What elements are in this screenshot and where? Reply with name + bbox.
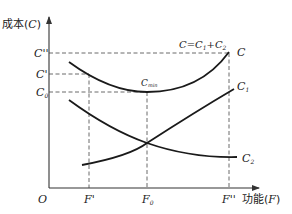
- curve-c2-label: C2: [242, 152, 254, 165]
- curve-c1-label: C1: [237, 80, 249, 93]
- x-axis-label: 功能(F): [242, 192, 280, 206]
- total-cost-equation: C=C1+C2: [179, 39, 227, 51]
- cmin-label: Cmin: [141, 78, 157, 88]
- curve-c-label: C: [237, 46, 246, 59]
- f-prime-label: F': [83, 193, 95, 206]
- c0-label: C0: [36, 86, 48, 99]
- cost-curve-c2: [69, 100, 237, 157]
- f0-label: F0: [141, 193, 154, 206]
- cost-curve-c1: [82, 89, 234, 165]
- cost-function-chart: 成本(C) C'' C' C0 O F' F0 F'' 功能(F) Cmin C…: [0, 0, 292, 214]
- c-prime-label: C': [36, 68, 47, 81]
- f-double-prime-label: F'': [221, 193, 236, 206]
- origin-label: O: [38, 193, 47, 206]
- y-axis-label: 成本(C): [2, 17, 41, 31]
- c-double-prime-label: C'': [34, 47, 48, 60]
